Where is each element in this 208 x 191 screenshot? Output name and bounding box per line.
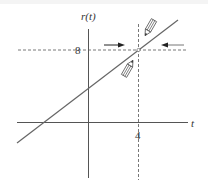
arrow-right-icon [104,43,125,48]
x-tick-label: 4 [135,129,141,141]
graph: r(t) t 8 4 [0,0,208,191]
function-line [17,20,178,143]
x-axis-label: t [191,117,195,129]
y-tick-label: 8 [75,44,81,56]
arrow-left-icon [161,43,184,48]
y-axis-label: r(t) [81,10,96,23]
pencil-icon [142,19,156,38]
limit-point [137,48,140,51]
